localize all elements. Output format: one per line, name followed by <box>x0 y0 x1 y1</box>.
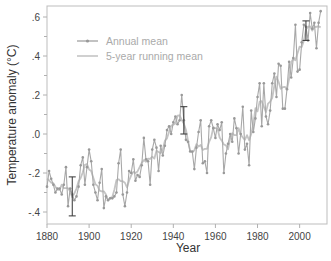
data-point <box>73 199 76 202</box>
data-point <box>52 183 55 186</box>
data-point <box>88 148 91 151</box>
data-point <box>84 183 87 186</box>
data-point <box>105 195 108 198</box>
data-point <box>206 172 209 175</box>
data-point <box>168 125 171 128</box>
data-point <box>218 129 221 132</box>
data-point <box>100 168 103 171</box>
data-point <box>119 148 122 151</box>
data-point <box>208 125 211 128</box>
data-point <box>151 148 154 151</box>
data-point <box>155 146 158 149</box>
data-point <box>265 115 268 118</box>
data-point <box>145 158 148 161</box>
data-point <box>244 148 247 151</box>
data-point <box>269 109 272 112</box>
data-point <box>241 105 244 108</box>
data-point <box>235 127 238 130</box>
data-point <box>77 185 80 188</box>
data-point <box>227 142 230 145</box>
data-point <box>134 180 137 183</box>
data-point <box>267 123 270 126</box>
x-tick-label: 1960 <box>204 231 227 242</box>
data-point <box>225 152 228 155</box>
data-point <box>143 137 146 140</box>
data-point <box>315 47 318 50</box>
data-point <box>164 144 167 147</box>
data-point <box>279 64 282 67</box>
x-tick-label: 1880 <box>36 231 59 242</box>
data-point <box>170 133 173 136</box>
y-tick-label: .2 <box>32 90 41 101</box>
data-point <box>296 70 299 73</box>
data-point <box>92 183 95 186</box>
x-axis-title: Year <box>176 241 200 255</box>
data-point <box>60 193 63 196</box>
data-point <box>147 160 150 163</box>
data-point <box>149 183 152 186</box>
data-point <box>260 125 263 128</box>
data-point <box>46 185 49 188</box>
x-tick-label: 1920 <box>120 231 143 242</box>
data-point <box>79 164 82 167</box>
data-point <box>113 195 116 198</box>
data-point <box>303 24 306 27</box>
data-point <box>115 191 118 194</box>
data-point <box>86 166 89 169</box>
data-point <box>195 146 198 149</box>
data-point <box>292 57 295 60</box>
data-point <box>216 123 219 126</box>
data-point <box>214 137 217 140</box>
data-point <box>201 162 204 165</box>
y-tick-label: .6 <box>32 12 41 23</box>
data-point <box>157 170 160 173</box>
plot-frame <box>47 6 327 224</box>
data-point <box>239 133 242 136</box>
y-axis-title: Temperature anomaly (°C) <box>5 45 19 186</box>
data-point <box>246 142 249 145</box>
data-point <box>130 172 133 175</box>
data-point <box>284 107 287 110</box>
data-point <box>103 207 106 210</box>
data-point <box>75 195 78 198</box>
data-point <box>199 119 202 122</box>
x-axis: 1880190019201940196019802000 <box>36 224 311 242</box>
data-point <box>58 187 61 190</box>
data-point <box>50 178 53 181</box>
x-tick-label: 1900 <box>78 231 101 242</box>
data-point <box>263 82 266 85</box>
legend-running-label: 5-year running mean <box>106 50 203 62</box>
data-point <box>185 139 188 142</box>
data-point <box>286 88 289 91</box>
data-point <box>298 68 301 71</box>
data-point <box>204 160 207 163</box>
data-point <box>111 197 114 200</box>
data-point <box>254 117 257 120</box>
legend-annual-label: Annual mean <box>106 35 168 47</box>
data-point <box>258 82 261 85</box>
data-point <box>178 119 181 122</box>
data-point <box>126 191 129 194</box>
data-point <box>273 72 276 75</box>
data-point <box>250 109 253 112</box>
temperature-anomaly-chart: -.4-.2.0.2.4.6 1880190019201940196019802… <box>0 0 331 261</box>
y-tick-label: .4 <box>32 51 41 62</box>
data-point <box>317 22 320 25</box>
data-point <box>65 166 68 169</box>
data-point <box>121 193 124 196</box>
data-point <box>193 168 196 171</box>
data-point <box>248 164 251 167</box>
data-point <box>166 129 169 132</box>
data-point <box>237 152 240 155</box>
data-point <box>197 131 200 134</box>
data-point <box>98 181 101 184</box>
data-point <box>161 154 164 157</box>
data-point <box>48 170 51 173</box>
data-point <box>180 94 183 97</box>
data-point <box>311 27 314 30</box>
data-point <box>275 96 278 99</box>
data-point <box>271 82 274 85</box>
data-point <box>309 12 312 15</box>
y-tick-label: .0 <box>32 129 41 140</box>
data-point <box>96 199 99 202</box>
